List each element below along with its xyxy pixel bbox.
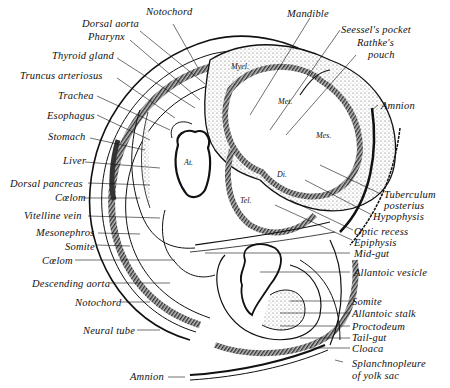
label-allantoic-vesicle: Allantoic vesicle [354,267,427,278]
label-amnion-top: Amnion [381,100,415,111]
tail-region [215,244,356,353]
brain [205,45,396,233]
label-splanchnopleure: Splanchnopleure [352,358,426,369]
label-atrium: At. [184,158,193,167]
label-hypophysis: Hypophysis [373,211,424,222]
label-proctodeum: Proctodeum [352,321,405,332]
label-allantoic-stalk: Allantoic stalk [352,308,416,319]
label-cloaca: Cloaca [352,343,384,354]
label-stomach: Stomach [48,131,86,142]
label-coelom-upper: Cœlom [55,192,86,203]
label-esophagus: Esophagus [47,110,95,121]
label-trachea: Trachea [58,90,94,101]
label-neural-tube: Neural tube [83,325,135,336]
label-met: Met. [278,97,292,106]
label-dorsal-pancreas: Dorsal pancreas [10,178,83,189]
label-vitelline-vein: Vitelline vein [24,210,82,221]
label-rathkes: Rathke's [357,37,394,48]
label-myel: Myel. [231,62,249,71]
label-mid-gut: Mid-gut [354,248,389,259]
label-amnion-bottom: Amnion [130,371,164,382]
label-di: Di. [277,170,287,179]
label-somite-left: Somite [65,241,95,252]
label-mandible: Mandible [287,8,329,19]
label-coelom-lower: Cœlom [42,255,73,266]
label-ventricle: ven. [182,180,195,189]
label-descending-aorta: Descending aorta [32,278,110,289]
label-seessels-pocket: Seessel's pocket [341,24,411,35]
label-pharynx: Pharynx [88,31,125,42]
label-tel: Tel. [240,196,252,205]
label-notochord-upper: Notochord [146,6,192,17]
label-tail-gut: Tail-gut [352,332,386,343]
label-thyroid-gland: Thyroid gland [52,50,114,61]
label-posterius: posterius [384,200,424,211]
label-dorsal-aorta: Dorsal aorta [82,18,139,29]
label-pouch: pouch [368,49,395,60]
label-optic-recess: Optic recess [354,226,408,237]
label-liver: Liver [63,155,86,166]
label-mesonephros: Mesonephros [36,227,94,238]
label-notochord-lower: Notochord [75,297,121,308]
label-truncus-arteriosus: Truncus arteriosus [20,70,103,81]
label-tuberculum: Tuberculum [384,189,436,200]
label-of-yolk-sac: of yolk sac [352,370,399,381]
label-epiphysis: Epiphysis [354,237,397,248]
label-somite-right: Somite [352,296,382,307]
label-mes: Mes. [316,131,331,140]
